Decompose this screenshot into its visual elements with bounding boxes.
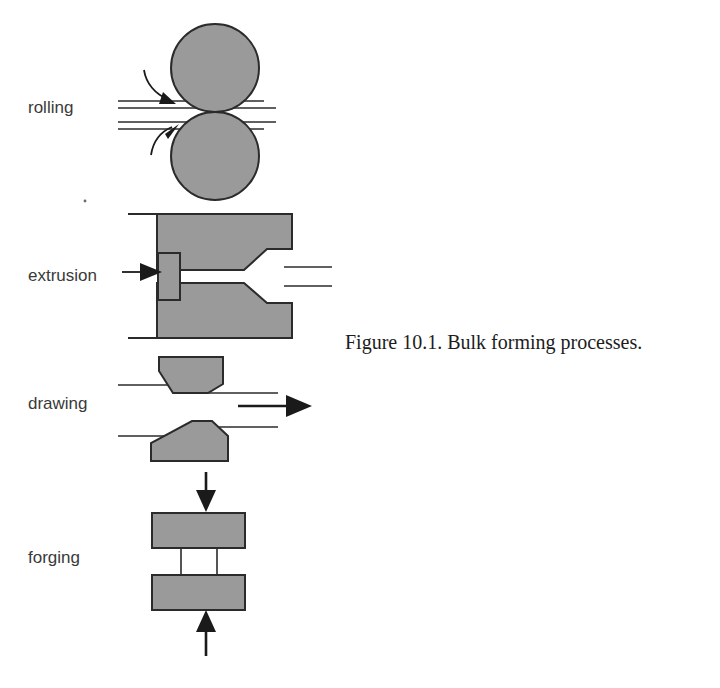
forging-bottom-platen [152,575,245,610]
label-drawing: drawing [28,394,88,413]
figure-caption: Figure 10.1. Bulk forming processes. [345,331,642,354]
drawing-upper-die [159,357,223,393]
label-extrusion: extrusion [28,266,97,285]
forging-top-platen [152,513,245,548]
label-forging: forging [28,548,80,567]
figure-canvas: rolling extrusion [0,0,720,688]
figure-bulk-forming-processes: rolling extrusion [0,0,720,688]
scan-artifact-dot [84,200,87,203]
rolling-bottom-roll [171,112,259,200]
extrusion-ram [158,253,180,300]
label-rolling: rolling [28,98,73,117]
rolling-top-roll [171,24,259,112]
